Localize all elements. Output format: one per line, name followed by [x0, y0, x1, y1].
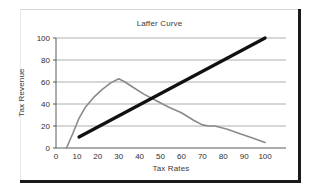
- series-line-1: [79, 38, 265, 137]
- data-series-group: [66, 38, 265, 148]
- x-tick-label-10: 10: [72, 152, 81, 161]
- x-tick-label-0: 0: [54, 152, 59, 161]
- x-tick-label-100: 100: [258, 152, 272, 161]
- y-tick-label-80: 80: [41, 56, 50, 65]
- x-tick-label-60: 60: [177, 152, 186, 161]
- y-tick-label-0: 0: [46, 144, 51, 153]
- x-tick-label-20: 20: [93, 152, 102, 161]
- x-tick-labels-group: 0102030405060708090100: [54, 152, 273, 161]
- x-tick-label-40: 40: [135, 152, 144, 161]
- y-tick-label-40: 40: [41, 100, 50, 109]
- plot-area: 020406080100 0102030405060708090100: [0, 0, 319, 196]
- x-tick-label-30: 30: [114, 152, 123, 161]
- gridlines-group: [56, 38, 286, 126]
- y-tick-labels-group: 020406080100: [37, 34, 51, 153]
- y-tick-label-100: 100: [37, 34, 51, 43]
- laffer-curve-figure: Laffer Curve Tax Revenue Tax Rates 02040…: [0, 0, 319, 196]
- x-tick-label-80: 80: [219, 152, 228, 161]
- x-tick-label-70: 70: [198, 152, 207, 161]
- x-tick-label-50: 50: [156, 152, 165, 161]
- x-tick-label-90: 90: [240, 152, 249, 161]
- y-tick-label-60: 60: [41, 78, 50, 87]
- y-tick-label-20: 20: [41, 122, 50, 131]
